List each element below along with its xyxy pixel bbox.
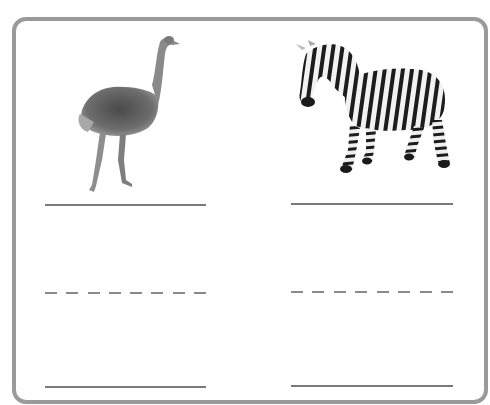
zebra-image xyxy=(296,40,458,176)
writing-line-top-right xyxy=(291,203,453,205)
writing-line-dashed-right xyxy=(291,291,453,293)
writing-line-top-left xyxy=(45,204,206,206)
writing-line-bottom-left xyxy=(45,386,206,388)
writing-line-dashed-left xyxy=(45,292,206,294)
writing-line-bottom-right xyxy=(291,385,453,387)
ostrich-image xyxy=(72,30,187,195)
